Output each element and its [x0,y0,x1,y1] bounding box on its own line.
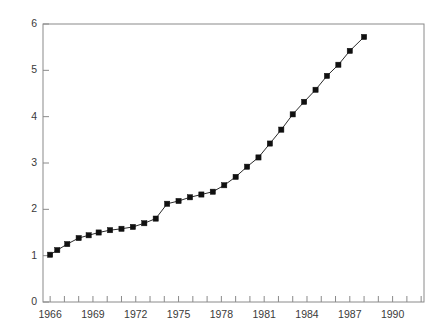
x-axis-tick-label: 1984 [287,309,327,320]
line-chart: 0123456 19661969197219751978198119841987… [0,0,441,335]
data-point-marker [347,48,352,53]
data-point-marker [153,216,158,221]
data-point-marker [361,34,366,39]
x-axis-tick-label: 1990 [373,309,413,320]
plot-area [0,0,441,335]
data-point-marker [290,112,295,117]
data-point-marker [222,183,227,188]
series-polyline [50,37,364,255]
data-point-marker [199,192,204,197]
x-axis-ticks [50,296,421,302]
x-axis-tick-label: 1972 [116,309,156,320]
y-axis-tick-label: 1 [14,250,37,261]
data-point-marker [55,248,60,253]
y-axis-tick-label: 6 [14,18,37,29]
data-point-marker [313,87,318,92]
data-point-marker [96,230,101,235]
data-point-marker [65,241,70,246]
y-axis-tick-label: 5 [14,64,37,75]
data-markers [48,34,367,257]
x-axis-tick-label: 1987 [330,309,370,320]
x-axis-tick-label: 1966 [30,309,70,320]
x-axis-tick-label: 1978 [201,309,241,320]
y-axis-tick-label: 4 [14,111,37,122]
data-point-marker [48,252,53,257]
plot-frame [43,24,424,302]
data-point-marker [86,233,91,238]
x-axis-tick-label: 1981 [244,309,284,320]
data-point-marker [187,195,192,200]
y-axis-ticks [43,24,49,302]
data-line [50,37,364,255]
y-axis-tick-label: 0 [14,296,37,307]
data-point-marker [336,62,341,67]
data-point-marker [107,228,112,233]
data-point-marker [279,127,284,132]
x-axis-tick-label: 1969 [73,309,113,320]
data-point-marker [130,224,135,229]
data-point-marker [165,201,170,206]
data-point-marker [256,155,261,160]
data-point-marker [233,174,238,179]
data-point-marker [244,164,249,169]
data-point-marker [76,235,81,240]
x-axis-tick-label: 1975 [159,309,199,320]
y-axis-tick-label: 2 [14,203,37,214]
data-point-marker [210,189,215,194]
data-point-marker [119,226,124,231]
data-point-marker [142,221,147,226]
data-point-marker [324,73,329,78]
data-point-marker [176,198,181,203]
data-point-marker [302,99,307,104]
y-axis-tick-label: 3 [14,157,37,168]
frame-rect [43,24,424,302]
data-point-marker [267,141,272,146]
